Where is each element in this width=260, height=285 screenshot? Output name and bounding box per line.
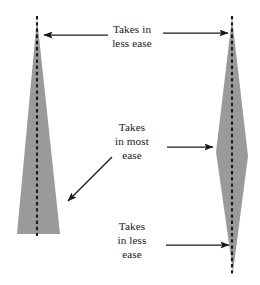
annotation-label-middle: Takes in most ease xyxy=(98,120,166,162)
annotation-label-bottom: Takes in less ease xyxy=(98,219,166,261)
left-triangle-shape xyxy=(17,18,60,234)
annotation-label-top: Takes in less ease xyxy=(98,22,166,50)
diagram-figure: Takes in less ease Takes in most ease Ta… xyxy=(0,0,260,285)
arrow-middle-left-diagonal xyxy=(68,157,112,201)
